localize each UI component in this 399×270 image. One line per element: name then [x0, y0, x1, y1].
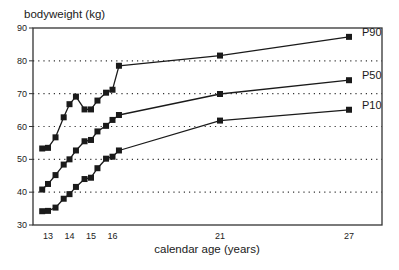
- data-point-square: [110, 117, 116, 123]
- series-line: [42, 80, 349, 189]
- series-label-p10: P10: [362, 99, 382, 111]
- data-point-square: [346, 34, 352, 40]
- data-point-square: [45, 145, 51, 151]
- data-point-square: [82, 106, 88, 112]
- y-tick-label: 50: [17, 154, 27, 164]
- data-point-square: [73, 147, 79, 153]
- series-label-p90: P90: [362, 26, 382, 38]
- data-point-square: [217, 118, 223, 124]
- data-point-square: [73, 184, 79, 190]
- data-point-square: [346, 77, 352, 83]
- series-p90: [39, 34, 352, 152]
- x-tick-label: 16: [107, 231, 117, 241]
- data-point-square: [73, 94, 79, 100]
- x-tick-label: 27: [344, 231, 354, 241]
- series-p10: [39, 107, 352, 214]
- data-point-square: [45, 208, 51, 214]
- y-tick-label: 30: [17, 220, 27, 230]
- bodyweight-line-chart: 30405060708090 131415162127 P90P50P10 bo…: [0, 0, 399, 270]
- data-point-square: [67, 191, 73, 197]
- data-point-square: [94, 98, 100, 104]
- data-point-square: [61, 114, 67, 120]
- data-point-square: [217, 53, 223, 59]
- data-point-square: [94, 165, 100, 171]
- x-axis-ticks: 131415162127: [43, 231, 354, 241]
- series-labels: P90P50P10: [362, 26, 382, 111]
- data-point-square: [53, 134, 59, 140]
- data-point-square: [53, 205, 59, 211]
- data-point-square: [110, 87, 116, 93]
- data-point-square: [103, 123, 109, 129]
- y-tick-label: 40: [17, 187, 27, 197]
- data-point-square: [88, 106, 94, 112]
- data-point-square: [45, 181, 51, 187]
- x-tick-label: 13: [43, 231, 53, 241]
- data-point-square: [103, 156, 109, 162]
- x-tick-label: 15: [86, 231, 96, 241]
- x-tick-label: 21: [215, 231, 225, 241]
- y-tick-label: 90: [17, 23, 27, 33]
- data-point-square: [39, 208, 45, 214]
- y-axis-ticks: 30405060708090: [17, 23, 33, 230]
- data-point-square: [88, 175, 94, 181]
- data-point-square: [116, 63, 122, 69]
- data-point-square: [67, 101, 73, 107]
- series-p50: [39, 77, 352, 192]
- data-point-square: [82, 138, 88, 144]
- data-point-square: [61, 196, 67, 202]
- data-point-square: [346, 107, 352, 113]
- y-axis-title: bodyweight (kg): [24, 8, 105, 20]
- series-line: [42, 37, 349, 149]
- data-point-square: [116, 112, 122, 118]
- data-point-square: [116, 147, 122, 153]
- data-point-square: [67, 156, 73, 162]
- series-line: [42, 110, 349, 211]
- data-point-square: [88, 137, 94, 143]
- data-point-square: [94, 128, 100, 134]
- x-axis-title: calendar age (years): [154, 243, 260, 255]
- data-point-square: [110, 154, 116, 160]
- data-point-square: [53, 172, 59, 178]
- data-point-square: [103, 90, 109, 96]
- y-tick-label: 70: [17, 89, 27, 99]
- y-tick-label: 60: [17, 122, 27, 132]
- x-tick-label: 14: [64, 231, 74, 241]
- gridlines: [33, 61, 382, 192]
- y-tick-label: 80: [17, 56, 27, 66]
- data-point-square: [217, 91, 223, 97]
- data-point-square: [39, 187, 45, 193]
- data-point-square: [61, 162, 67, 168]
- series-label-p50: P50: [362, 69, 382, 81]
- data-point-square: [82, 176, 88, 182]
- data-point-square: [39, 145, 45, 151]
